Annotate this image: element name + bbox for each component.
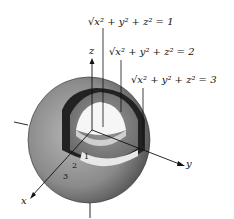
z-axis-label: z: [89, 45, 94, 56]
tick-2: 2: [72, 161, 77, 170]
tick-3: 3: [63, 172, 68, 181]
equation-radius-3: √x² + y² + z² = 3: [131, 74, 217, 85]
x-axis-label: x: [21, 195, 27, 206]
spherical-shells-figure: [0, 0, 234, 219]
y-axis-label: y: [186, 158, 192, 169]
axis-left-stub: [14, 122, 28, 125]
equation-radius-1: √x² + y² + z² = 1: [88, 16, 174, 27]
equation-radius-2: √x² + y² + z² = 2: [109, 46, 195, 57]
tick-1: 1: [84, 152, 89, 161]
